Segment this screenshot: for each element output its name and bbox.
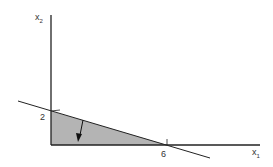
y-intercept-tick [51, 110, 60, 111]
diagram-canvas: x2 2 6 x1 [0, 0, 273, 167]
y-intercept-label: 2 [40, 112, 45, 122]
x-intercept-label: 6 [161, 149, 166, 159]
x2-axis-label: x2 [35, 12, 44, 24]
x1-axis-label: x1 [252, 147, 261, 159]
constraint-line [18, 101, 210, 158]
